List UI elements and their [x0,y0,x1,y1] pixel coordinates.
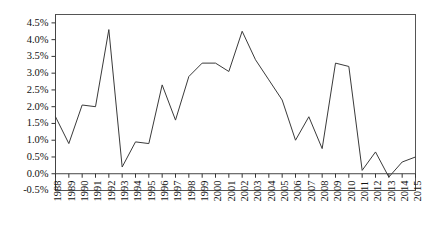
x-axis-tick-label-group: 1993 [119,181,130,202]
x-axis-tick-label: 2001 [226,181,237,202]
x-axis-tick-label: 2011 [359,181,370,202]
x-axis-tick-label-group: 2009 [332,181,343,202]
x-axis-tick-label-group: 2003 [252,181,263,202]
y-axis-tick-label: 4.0% [27,34,49,45]
x-axis-tick-label-group: 2013 [386,181,397,202]
y-axis-tick-label: 2.0% [27,101,49,112]
data-series-line [56,30,416,178]
x-axis-tick-label-group: 2006 [292,181,303,202]
x-axis-tick-label-group: 1996 [159,181,170,202]
x-axis-tick-label-group: 2008 [319,181,330,202]
x-axis-tick-label: 1995 [146,181,157,202]
y-axis-tick-label: 1.5% [27,117,49,128]
x-axis-tick-label: 2004 [266,180,277,202]
x-axis-tick-label: 2007 [306,181,317,202]
x-axis-tick-label-group: 2012 [372,181,383,202]
x-axis-tick-label-group: 2004 [266,180,277,202]
x-axis-tick-label: 1988 [52,181,63,202]
x-axis-tick-label: 1989 [66,181,77,202]
x-axis-tick-label-group: 2010 [346,181,357,202]
x-axis-tick-label-group: 1998 [186,181,197,202]
x-axis-tick-label: 2014 [399,180,410,202]
x-axis-tick-label-group: 1997 [172,181,183,202]
x-axis-tick-label-group: 2014 [399,180,410,202]
x-axis-tick-label: 2015 [412,181,423,202]
x-axis-tick-label: 2012 [372,181,383,202]
x-axis-tick-label: 2013 [386,181,397,202]
x-axis-tick-label: 1992 [106,181,117,202]
x-axis-tick-label-group: 1988 [52,181,63,202]
x-axis-tick-label-group: 1992 [106,181,117,202]
x-axis-tick-label: 1997 [172,181,183,202]
y-axis-tick-label: 1.0% [27,134,49,145]
x-axis-tick-label-group: 2011 [359,181,370,202]
y-axis-tick-label: 3.0% [27,67,49,78]
x-axis-tick-label: 1994 [132,180,143,202]
x-axis-tick-label: 2005 [279,181,290,202]
x-axis-tick-label-group: 2000 [212,181,223,202]
y-axis-tick-label: 3.5% [27,50,49,61]
y-axis-tick-label: -0.5% [23,184,49,195]
y-axis-tick-label: 2.5% [27,84,49,95]
x-axis-tick-label-group: 1989 [66,181,77,202]
x-axis-tick-label-group: 1994 [132,180,143,202]
chart-container: 4.5%4.0%3.5%3.0%2.5%2.0%1.5%1.0%0.5%0.0%… [0,0,440,249]
x-axis-tick-label-group: 1991 [92,181,103,202]
x-axis-tick-label: 2006 [292,181,303,202]
x-axis-tick-label-group: 1999 [199,181,210,202]
x-axis-tick-label: 1991 [92,181,103,202]
x-axis-tick-label: 1998 [186,181,197,202]
x-axis-tick-label: 2010 [346,181,357,202]
x-axis-tick-label: 2009 [332,181,343,202]
y-axis-tick-label: 4.5% [27,17,49,28]
x-axis-tick-label: 1996 [159,181,170,202]
x-axis-tick-label-group: 1990 [79,181,90,202]
x-axis-tick-label: 1999 [199,181,210,202]
y-axis-tick-label: 0.0% [27,168,49,179]
x-axis-tick-label: 2003 [252,181,263,202]
x-axis-tick-label: 2002 [239,181,250,202]
x-axis-tick-label-group: 2005 [279,181,290,202]
x-axis-tick-label: 2000 [212,181,223,202]
x-axis-tick-label-group: 2007 [306,181,317,202]
x-axis-tick-label: 2008 [319,181,330,202]
x-axis-tick-label: 1990 [79,181,90,202]
x-axis-tick-label-group: 1995 [146,181,157,202]
y-axis-tick-label: 0.5% [27,151,49,162]
x-axis-tick-label: 1993 [119,181,130,202]
x-axis-tick-label-group: 2015 [412,181,423,202]
x-axis-tick-label-group: 2001 [226,181,237,202]
x-axis-tick-label-group: 2002 [239,181,250,202]
line-chart: 4.5%4.0%3.5%3.0%2.5%2.0%1.5%1.0%0.5%0.0%… [0,0,440,249]
